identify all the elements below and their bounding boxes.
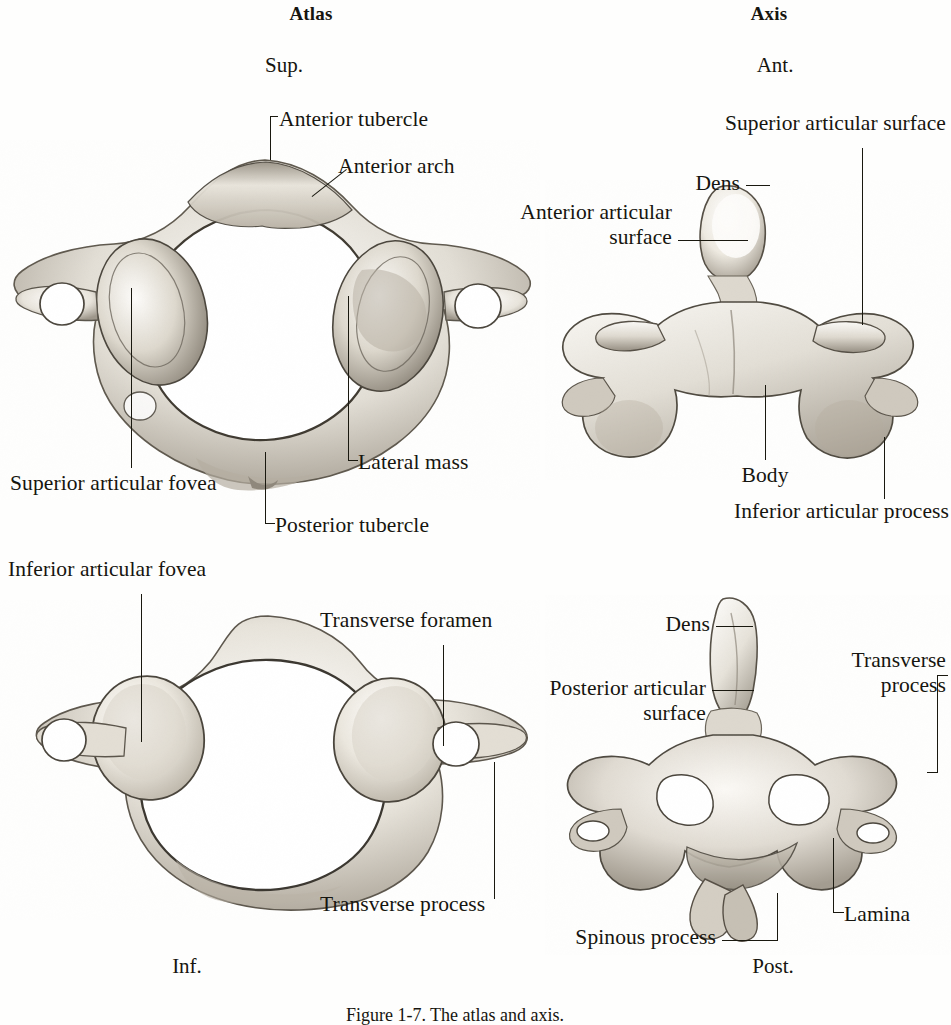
leader-spinous-process bbox=[722, 940, 778, 941]
leader-dens-posterior bbox=[716, 626, 753, 627]
leader-inferior-articular-fovea bbox=[141, 594, 142, 742]
label-posterior-articular-line1: Posterior articular bbox=[549, 676, 706, 700]
label-superior-articular-surface: Superior articular surface bbox=[725, 112, 946, 135]
leader-dens bbox=[746, 185, 770, 186]
label-transverse-process-line1: Transverse bbox=[851, 648, 946, 672]
leader-superior-articular-surface bbox=[862, 148, 863, 325]
label-inferior-articular-fovea: Inferior articular fovea bbox=[8, 558, 206, 581]
leader-lamina-foot bbox=[833, 912, 844, 913]
label-anterior-articular-line2: surface bbox=[609, 225, 672, 249]
label-lateral-mass: Lateral mass bbox=[358, 451, 468, 474]
figure-atlas-superior bbox=[0, 140, 540, 500]
figure-atlas-inferior bbox=[0, 600, 540, 920]
label-posterior-articular-surface: Posterior articularsurface bbox=[456, 676, 706, 727]
label-transverse-process-axis: Transverseprocess bbox=[776, 648, 946, 699]
leader-spinous-process-riser bbox=[777, 893, 778, 941]
label-superior-articular-fovea: Superior articular fovea bbox=[10, 472, 217, 495]
label-transverse-foramen: Transverse foramen bbox=[320, 609, 492, 632]
label-posterior-articular-line2: surface bbox=[643, 701, 706, 725]
leader-anterior-articular-surface bbox=[678, 240, 748, 241]
axis-orientation-bottom: Post. bbox=[752, 955, 793, 978]
label-dens-posterior: Dens bbox=[665, 613, 710, 636]
leader-transverse-process-axis bbox=[937, 675, 938, 773]
figure-caption: Figure 1-7. The atlas and axis. bbox=[346, 1006, 564, 1025]
label-anterior-articular-line1: Anterior articular bbox=[520, 200, 672, 224]
atlas-orientation-top: Sup. bbox=[265, 54, 303, 77]
leader-body bbox=[765, 385, 766, 460]
leader-transverse-process-axis-tick bbox=[938, 675, 948, 676]
leader-lateral-mass bbox=[348, 296, 349, 461]
leader-inferior-articular-process bbox=[884, 437, 885, 499]
atlas-superior-artwork bbox=[0, 140, 540, 500]
leader-posterior-articular-surface bbox=[712, 690, 754, 691]
atlas-inferior-artwork bbox=[0, 600, 540, 920]
leader-transverse-process-atlas bbox=[494, 762, 495, 899]
leader-transverse-foramen bbox=[443, 645, 444, 746]
leader-transverse-process-axis-foot bbox=[927, 772, 938, 773]
column-title-axis: Axis bbox=[751, 4, 788, 25]
label-anterior-articular-surface: Anterior articularsurface bbox=[452, 200, 672, 251]
leader-posterior-tubercle-foot bbox=[265, 523, 275, 524]
label-inferior-articular-process: Inferior articular process bbox=[734, 500, 949, 523]
leader-lamina bbox=[833, 838, 834, 913]
column-title-atlas: Atlas bbox=[289, 4, 332, 25]
label-lamina: Lamina bbox=[844, 903, 910, 926]
atlas-orientation-bottom: Inf. bbox=[172, 955, 202, 978]
leader-posterior-tubercle bbox=[265, 452, 266, 524]
leader-anterior-tubercle bbox=[270, 116, 271, 160]
leader-superior-articular-fovea bbox=[131, 288, 132, 468]
axis-orientation-top: Ant. bbox=[757, 54, 794, 77]
label-anterior-arch: Anterior arch bbox=[338, 155, 455, 178]
label-posterior-tubercle: Posterior tubercle bbox=[275, 514, 429, 537]
label-transverse-process-atlas: Transverse process bbox=[320, 893, 485, 916]
label-dens: Dens bbox=[695, 172, 740, 195]
leader-lateral-mass-foot bbox=[348, 460, 358, 461]
label-spinous-process: Spinous process bbox=[575, 926, 716, 949]
label-body: Body bbox=[742, 464, 789, 487]
label-anterior-tubercle: Anterior tubercle bbox=[279, 108, 428, 131]
